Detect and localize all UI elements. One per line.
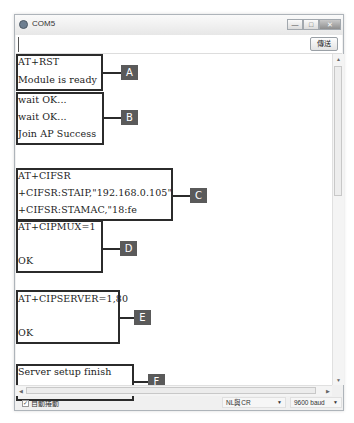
output-line: OK bbox=[18, 327, 33, 338]
output-line: wait OK... bbox=[18, 94, 67, 105]
connector-b bbox=[104, 117, 121, 119]
output-line: Module is ready bbox=[18, 74, 97, 85]
app-icon bbox=[19, 20, 28, 29]
label-d: D bbox=[120, 241, 137, 256]
autoscroll-label: 自動捲動 bbox=[31, 398, 59, 408]
scroll-left-icon[interactable]: ◀ bbox=[16, 386, 25, 396]
serial-monitor-window: COM5 — □ ✕ 傳送 AT+RST Module is ready A w… bbox=[14, 14, 344, 411]
window-title: COM5 bbox=[32, 19, 55, 28]
output-line: AT+RST bbox=[18, 56, 59, 67]
vertical-scroll-thumb[interactable] bbox=[334, 66, 342, 196]
autoscroll-toggle[interactable]: ✓ 自動捲動 bbox=[22, 398, 59, 408]
horizontal-scroll-thumb[interactable] bbox=[26, 387, 316, 394]
connector-a bbox=[103, 72, 121, 74]
chevron-down-icon: ▼ bbox=[277, 398, 282, 407]
output-line: +CIFSR:STAIP,"192.168.0.105" bbox=[18, 187, 172, 198]
connector-c bbox=[173, 195, 190, 197]
connector-f bbox=[134, 381, 148, 383]
output-line: OK bbox=[18, 255, 33, 266]
serial-output: AT+RST Module is ready A wait OK... wait… bbox=[16, 54, 332, 385]
output-line: +CIFSR:STAMAC,"18:fe bbox=[18, 204, 137, 215]
maximize-button[interactable]: □ bbox=[303, 19, 319, 30]
output-line: Server setup finish bbox=[18, 366, 111, 377]
connector-e bbox=[120, 317, 134, 319]
minimize-button[interactable]: — bbox=[287, 19, 303, 30]
label-e: E bbox=[134, 310, 151, 325]
label-a: A bbox=[121, 65, 138, 80]
send-input[interactable] bbox=[18, 37, 303, 52]
status-bar: ✓ 自動捲動 NL與CR ▼ 9600 baud ▼ bbox=[16, 396, 342, 410]
line-ending-select[interactable]: NL與CR ▼ bbox=[222, 397, 286, 408]
chevron-down-icon: ▼ bbox=[333, 398, 338, 407]
output-line: AT+CIPMUX=1 bbox=[18, 221, 96, 232]
connector-d bbox=[103, 248, 120, 250]
output-line: wait OK... bbox=[18, 111, 67, 122]
line-ending-value: NL與CR bbox=[226, 399, 251, 406]
autoscroll-checkbox[interactable]: ✓ bbox=[22, 400, 29, 407]
title-bar: COM5 — □ ✕ bbox=[15, 15, 343, 35]
scroll-right-icon[interactable]: ▶ bbox=[323, 386, 332, 396]
vertical-scrollbar[interactable]: ▲ ▼ bbox=[332, 54, 344, 385]
close-button[interactable]: ✕ bbox=[319, 19, 341, 30]
output-line: Join AP Success bbox=[18, 128, 96, 139]
label-c: C bbox=[190, 188, 207, 203]
output-line: AT+CIFSR bbox=[18, 170, 71, 181]
horizontal-scrollbar[interactable]: ◀ ▶ bbox=[16, 385, 332, 396]
output-line: AT+CIPSERVER=1,80 bbox=[18, 293, 128, 304]
scroll-up-icon[interactable]: ▲ bbox=[333, 54, 344, 64]
label-b: B bbox=[121, 110, 138, 125]
baud-rate-value: 9600 baud bbox=[294, 399, 325, 406]
send-button[interactable]: 傳送 bbox=[310, 37, 338, 51]
baud-rate-select[interactable]: 9600 baud ▼ bbox=[290, 397, 342, 408]
scroll-down-icon[interactable]: ▼ bbox=[333, 375, 344, 385]
send-bar: 傳送 bbox=[16, 35, 342, 54]
